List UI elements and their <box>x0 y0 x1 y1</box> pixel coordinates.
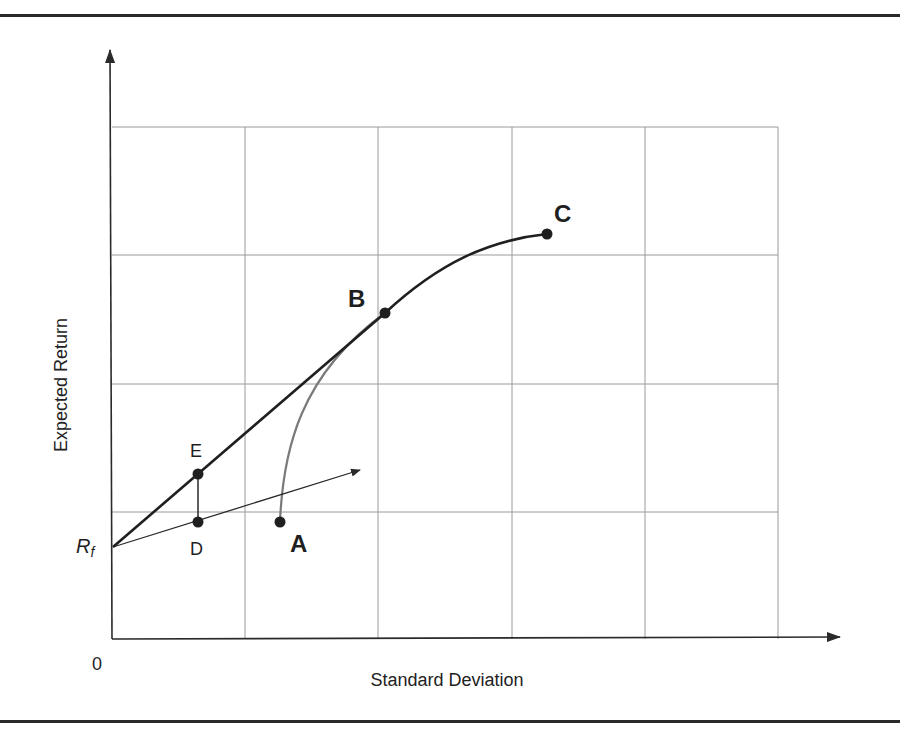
x-axis <box>112 637 840 639</box>
label-b: B <box>348 287 365 311</box>
rf-label-subscript: f <box>90 544 94 560</box>
origin-label: 0 <box>92 655 102 673</box>
rf-label-main: R <box>76 535 90 557</box>
label-d: D <box>190 540 203 558</box>
risk-return-chart <box>0 0 904 729</box>
cal-rf-d <box>113 470 360 547</box>
label-a: A <box>290 532 307 556</box>
point-c <box>542 229 553 240</box>
rf-label: Rf <box>76 536 94 559</box>
x-axis-label: Standard Deviation <box>370 671 523 689</box>
point-a <box>275 517 286 528</box>
frontier-b-c <box>385 234 547 313</box>
y-axis <box>110 50 112 639</box>
point-d <box>193 517 204 528</box>
point-e <box>193 469 204 480</box>
label-c: C <box>554 202 571 226</box>
label-e: E <box>190 442 202 460</box>
point-b <box>380 308 391 319</box>
grid <box>112 127 778 639</box>
y-axis-label: Expected Return <box>52 318 70 452</box>
